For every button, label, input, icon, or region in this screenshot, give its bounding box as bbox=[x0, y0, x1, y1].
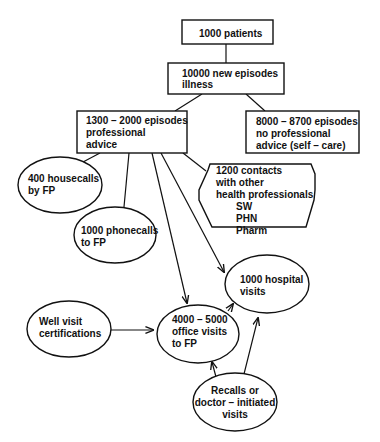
edge-professional-advice-to-housecalls bbox=[83, 153, 100, 162]
node-recalls-line-3: visits bbox=[222, 409, 248, 420]
node-recalls: Recalls or doctor – initiated visits bbox=[193, 373, 277, 431]
node-hospital-visits: 1000 hospital visits bbox=[225, 255, 309, 313]
node-office-visits-line-1: 4000 – 5000 bbox=[172, 314, 228, 325]
node-hospital-visits-line-2: visits bbox=[240, 286, 266, 297]
node-other-professionals-line-4: SW bbox=[236, 201, 253, 212]
node-office-visits-line-2: office visits bbox=[172, 326, 227, 337]
node-new-episodes-line-2: illness bbox=[182, 79, 214, 90]
node-new-episodes: 10000 new episodes illness bbox=[168, 63, 284, 94]
node-housecalls-line-2: by FP bbox=[28, 185, 56, 196]
node-housecalls-line-1: 400 housecalls bbox=[28, 173, 100, 184]
node-patients: 1000 patients bbox=[182, 20, 273, 44]
edge-professional-advice-to-other-professionals bbox=[183, 153, 206, 171]
node-hospital-visits-line-1: 1000 hospital bbox=[240, 274, 304, 285]
node-professional-advice-line-1: 1300 – 2000 episodes bbox=[86, 115, 188, 126]
node-office-visits: 4000 – 5000 office visits to FP bbox=[157, 305, 239, 363]
node-other-professionals-line-2: with other bbox=[215, 177, 264, 188]
node-new-episodes-line-1: 10000 new episodes bbox=[182, 68, 279, 79]
node-self-care-line-3: advice (self – care) bbox=[256, 140, 346, 151]
edge-professional-advice-to-phonecalls bbox=[124, 153, 129, 207]
node-professional-advice-line-2: professional bbox=[86, 127, 146, 138]
node-well-visit: Well visit certifications bbox=[27, 301, 111, 357]
node-professional-advice: 1300 – 2000 episodes professional advice bbox=[77, 111, 188, 153]
node-phonecalls-line-1: 1000 phonecalls bbox=[81, 225, 159, 236]
node-self-care: 8000 – 8700 episodes no professional adv… bbox=[246, 111, 359, 153]
node-recalls-line-2: doctor – initiated bbox=[195, 397, 276, 408]
node-other-professionals-line-6: Pharm bbox=[236, 225, 267, 236]
edge-recalls-to-office-visits bbox=[212, 362, 216, 377]
node-well-visit-line-1: Well visit bbox=[39, 316, 83, 327]
edge-new-episodes-to-self-care bbox=[246, 94, 265, 111]
node-other-professionals: 1200 contacts with other health professi… bbox=[199, 164, 315, 236]
edge-new-episodes-to-professional-advice bbox=[175, 94, 202, 111]
node-office-visits-line-3: to FP bbox=[172, 338, 197, 349]
edge-office-visits-to-hospital-visits bbox=[228, 304, 233, 311]
node-self-care-line-2: no professional bbox=[256, 128, 331, 139]
node-phonecalls-line-2: to FP bbox=[81, 237, 106, 248]
node-well-visit-line-2: certifications bbox=[39, 328, 102, 339]
node-professional-advice-line-3: advice bbox=[86, 139, 118, 150]
node-other-professionals-line-1: 1200 contacts bbox=[216, 165, 283, 176]
node-patients-line-1: 1000 patients bbox=[199, 28, 263, 39]
health-care-flow-diagram: 1000 patients 10000 new episodes illness… bbox=[0, 0, 380, 442]
node-phonecalls: 1000 phonecalls to FP bbox=[74, 207, 159, 263]
node-other-professionals-line-3: health professionals bbox=[216, 189, 314, 200]
edge-recalls-to-hospital-visits bbox=[244, 318, 258, 374]
node-self-care-line-1: 8000 – 8700 episodes bbox=[256, 116, 358, 127]
node-recalls-line-1: Recalls or bbox=[211, 385, 259, 396]
node-other-professionals-line-5: PHN bbox=[236, 213, 257, 224]
node-housecalls: 400 housecalls by FP bbox=[18, 157, 102, 213]
